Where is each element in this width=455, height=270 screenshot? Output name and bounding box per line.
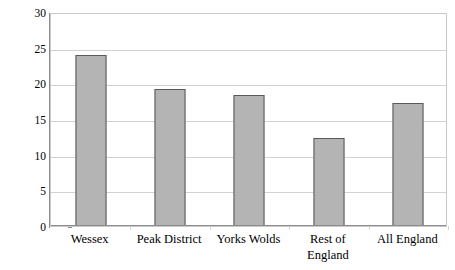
bar-slot xyxy=(51,14,130,226)
plot-area xyxy=(50,13,447,227)
y-axis-tick-label: 25 xyxy=(22,43,46,55)
x-axis-category-label: Yorks Wolds xyxy=(209,231,288,247)
bar[interactable] xyxy=(155,89,186,226)
y-axis-tick-label: 0 xyxy=(22,221,46,233)
y-axis-tick-label: 20 xyxy=(22,78,46,90)
x-axis-label-line: Yorks Wolds xyxy=(209,231,288,247)
x-axis-label-line: Wessex xyxy=(50,231,129,247)
x-axis-category-label: Wessex xyxy=(50,231,129,247)
x-axis-label-line: Peak District xyxy=(129,231,208,247)
x-axis-tick-mark xyxy=(369,226,370,230)
x-axis-tick-mark xyxy=(448,226,449,230)
bar[interactable] xyxy=(75,55,106,226)
y-axis-tick-mark xyxy=(68,227,72,228)
y-axis-tick-labels: 051015202530 xyxy=(22,0,46,270)
x-axis-label-line: Rest of xyxy=(288,231,367,247)
x-axis-label-line: All England xyxy=(368,231,447,247)
y-axis-tick-label: 5 xyxy=(22,185,46,197)
x-axis-category-labels: WessexPeak DistrictYorks WoldsRest ofEng… xyxy=(50,231,447,270)
bar-slot xyxy=(369,14,448,226)
bar-chart-figure: % of total graves in region 051015202530… xyxy=(0,0,455,270)
y-axis-tick-label: 15 xyxy=(22,114,46,126)
x-axis-baseline xyxy=(51,225,446,226)
bar-slot xyxy=(130,14,209,226)
x-axis-category-label: Rest ofEngland xyxy=(288,231,367,263)
x-axis-tick-mark xyxy=(210,226,211,230)
x-axis-category-label: Peak District xyxy=(129,231,208,247)
bar[interactable] xyxy=(313,138,344,226)
y-axis-tick-label: 10 xyxy=(22,150,46,162)
x-axis-tick-mark xyxy=(289,226,290,230)
x-axis-category-label: All England xyxy=(368,231,447,247)
x-axis-label-line: England xyxy=(288,247,367,263)
bar-slot xyxy=(289,14,368,226)
x-axis-tick-mark xyxy=(130,226,131,230)
bar[interactable] xyxy=(393,103,424,226)
y-axis-tick-label: 30 xyxy=(22,7,46,19)
bar[interactable] xyxy=(234,95,265,226)
bar-slot xyxy=(210,14,289,226)
bars-layer xyxy=(51,14,446,226)
